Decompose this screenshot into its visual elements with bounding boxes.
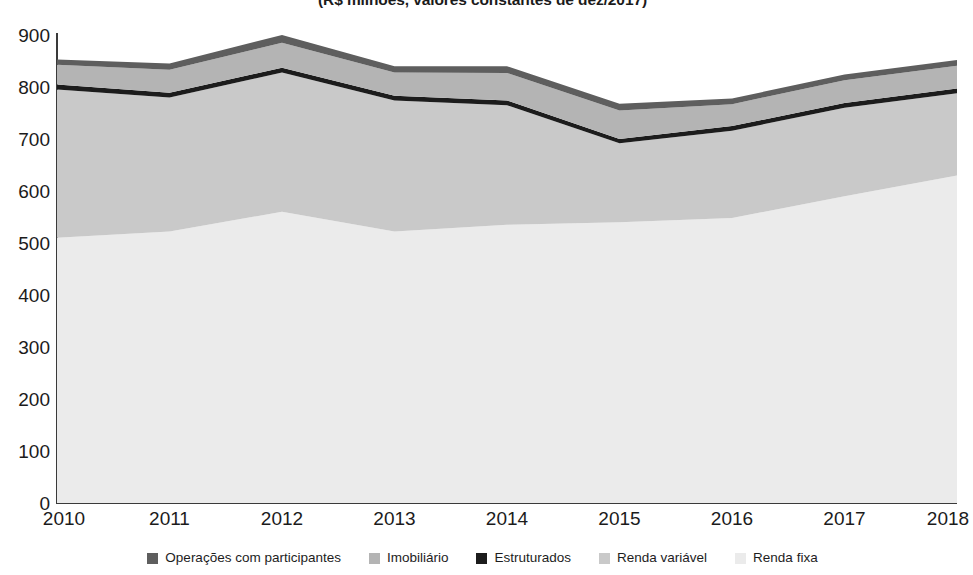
legend-item-renda-vari-vel[interactable]: Renda variável: [599, 551, 707, 565]
y-tick-label-900: 900: [4, 26, 50, 45]
legend-item-label: Imobiliário: [387, 551, 449, 565]
y-axis-tick-labels: 9008007006005004003002001000: [0, 0, 50, 575]
area-series-group: [57, 35, 957, 503]
legend-item-label: Estruturados: [494, 551, 571, 565]
x-tick-label-2012: 2012: [242, 508, 322, 530]
stacked-area-svg: [57, 35, 957, 503]
legend-item-opera-es-com-participantes[interactable]: Operações com participantes: [147, 551, 341, 565]
legend-item-renda-fixa[interactable]: Renda fixa: [735, 551, 818, 565]
y-tick-label-200: 200: [4, 390, 50, 409]
chart-legend: Operações com participantesImobiliárioEs…: [0, 546, 965, 570]
legend-item-label: Operações com participantes: [165, 551, 341, 565]
legend-item-imobili-rio[interactable]: Imobiliário: [369, 551, 449, 565]
legend-swatch-icon: [476, 553, 487, 564]
legend-item-label: Renda variável: [617, 551, 707, 565]
legend-swatch-icon: [369, 553, 380, 564]
y-tick-label-700: 700: [4, 130, 50, 149]
legend-item-label: Renda fixa: [753, 551, 818, 565]
y-tick-label-400: 400: [4, 286, 50, 305]
legend-swatch-icon: [735, 553, 746, 564]
x-tick-label-2017: 2017: [805, 508, 885, 530]
x-tick-label-2016: 2016: [692, 508, 772, 530]
x-tick-label-2014: 2014: [467, 508, 547, 530]
x-axis-tick-labels: 201020112012201320142015201620172018: [0, 508, 965, 536]
chart-title: (R$ milhões, valores constantes de dez/2…: [0, 0, 965, 9]
legend-swatch-icon: [599, 553, 610, 564]
y-tick-label-300: 300: [4, 338, 50, 357]
y-tick-label-100: 100: [4, 442, 50, 461]
x-tick-label-2018: 2018: [908, 508, 973, 530]
legend-swatch-icon: [147, 553, 158, 564]
y-tick-label-600: 600: [4, 182, 50, 201]
x-tick-label-2010: 2010: [24, 508, 104, 530]
x-tick-label-2013: 2013: [355, 508, 435, 530]
legend-item-estruturados[interactable]: Estruturados: [476, 551, 571, 565]
plot-area: [57, 35, 957, 503]
y-tick-label-800: 800: [4, 78, 50, 97]
x-tick-label-2015: 2015: [580, 508, 660, 530]
y-tick-label-500: 500: [4, 234, 50, 253]
x-tick-label-2011: 2011: [130, 508, 210, 530]
